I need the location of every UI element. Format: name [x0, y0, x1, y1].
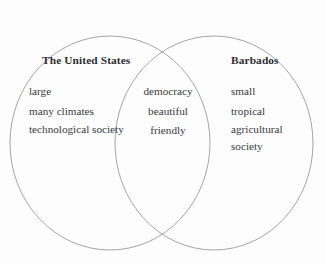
- venn-diagram: The United States large many climates te…: [0, 0, 326, 264]
- left-set-item: technological society: [29, 121, 133, 138]
- intersection-item: beautiful: [131, 102, 205, 122]
- right-set-item-list: small tropical agricultural society: [231, 82, 313, 155]
- right-set-item: agricultural society: [231, 121, 313, 155]
- intersection-item: democracy: [131, 82, 205, 102]
- venn-text-layer: The United States large many climates te…: [0, 0, 326, 264]
- right-set-heading: Barbados: [231, 54, 279, 67]
- left-set-item: many climates: [29, 102, 133, 122]
- left-set-item-list: large many climates technological societ…: [29, 82, 133, 138]
- intersection-item-list: democracy beautiful friendly: [131, 82, 205, 141]
- left-set-heading: The United States: [42, 54, 130, 67]
- left-set-item: large: [29, 82, 133, 102]
- intersection-item: friendly: [131, 121, 205, 141]
- right-set-item: tropical: [231, 102, 313, 122]
- right-set-item: small: [231, 82, 313, 102]
